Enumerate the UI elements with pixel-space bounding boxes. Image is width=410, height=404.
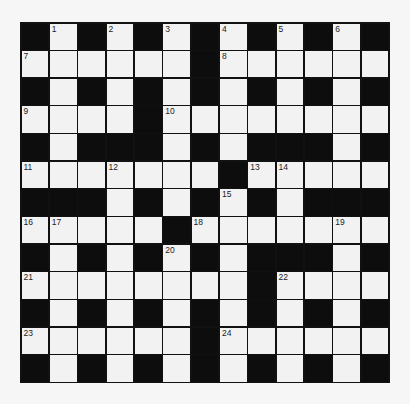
answer-cell[interactable]: 19 xyxy=(333,217,360,243)
answer-cell[interactable]: 10 xyxy=(163,106,190,132)
answer-cell[interactable] xyxy=(277,328,304,354)
answer-cell[interactable] xyxy=(107,217,134,243)
answer-cell[interactable]: 2 xyxy=(107,24,134,50)
answer-cell[interactable] xyxy=(248,106,275,132)
answer-cell[interactable] xyxy=(107,272,134,298)
answer-cell[interactable] xyxy=(107,300,134,326)
answer-cell[interactable] xyxy=(333,162,360,188)
answer-cell[interactable] xyxy=(163,328,190,354)
answer-cell[interactable] xyxy=(50,245,77,271)
answer-cell[interactable] xyxy=(362,328,389,354)
answer-cell[interactable] xyxy=(362,272,389,298)
answer-cell[interactable] xyxy=(220,245,247,271)
answer-cell[interactable] xyxy=(107,245,134,271)
answer-cell[interactable] xyxy=(78,106,105,132)
answer-cell[interactable] xyxy=(362,162,389,188)
answer-cell[interactable] xyxy=(50,134,77,160)
answer-cell[interactable] xyxy=(305,272,332,298)
answer-cell[interactable]: 6 xyxy=(333,24,360,50)
answer-cell[interactable]: 23 xyxy=(22,328,49,354)
answer-cell[interactable] xyxy=(135,162,162,188)
answer-cell[interactable] xyxy=(192,106,219,132)
answer-cell[interactable] xyxy=(78,217,105,243)
answer-cell[interactable] xyxy=(50,355,77,381)
answer-cell[interactable]: 12 xyxy=(107,162,134,188)
answer-cell[interactable] xyxy=(220,79,247,105)
answer-cell[interactable]: 7 xyxy=(22,51,49,77)
answer-cell[interactable] xyxy=(163,189,190,215)
answer-cell[interactable] xyxy=(305,217,332,243)
answer-cell[interactable] xyxy=(277,355,304,381)
answer-cell[interactable] xyxy=(333,300,360,326)
answer-cell[interactable] xyxy=(78,51,105,77)
answer-cell[interactable] xyxy=(50,300,77,326)
answer-cell[interactable] xyxy=(220,134,247,160)
answer-cell[interactable] xyxy=(305,162,332,188)
answer-cell[interactable]: 14 xyxy=(277,162,304,188)
answer-cell[interactable] xyxy=(362,217,389,243)
answer-cell[interactable] xyxy=(333,272,360,298)
answer-cell[interactable] xyxy=(135,328,162,354)
answer-cell[interactable]: 16 xyxy=(22,217,49,243)
answer-cell[interactable] xyxy=(333,328,360,354)
answer-cell[interactable] xyxy=(248,217,275,243)
answer-cell[interactable] xyxy=(107,328,134,354)
answer-cell[interactable] xyxy=(50,51,77,77)
answer-cell[interactable] xyxy=(192,162,219,188)
answer-cell[interactable] xyxy=(333,79,360,105)
answer-cell[interactable]: 3 xyxy=(163,24,190,50)
answer-cell[interactable] xyxy=(50,106,77,132)
answer-cell[interactable] xyxy=(78,272,105,298)
answer-cell[interactable] xyxy=(163,79,190,105)
answer-cell[interactable] xyxy=(220,300,247,326)
answer-cell[interactable] xyxy=(163,51,190,77)
answer-cell[interactable]: 17 xyxy=(50,217,77,243)
answer-cell[interactable]: 15 xyxy=(220,189,247,215)
answer-cell[interactable] xyxy=(277,300,304,326)
answer-cell[interactable] xyxy=(107,355,134,381)
answer-cell[interactable] xyxy=(107,51,134,77)
answer-cell[interactable] xyxy=(305,106,332,132)
answer-cell[interactable]: 9 xyxy=(22,106,49,132)
answer-cell[interactable] xyxy=(163,162,190,188)
answer-cell[interactable] xyxy=(277,51,304,77)
answer-cell[interactable] xyxy=(50,79,77,105)
answer-cell[interactable]: 22 xyxy=(277,272,304,298)
answer-cell[interactable] xyxy=(277,106,304,132)
answer-cell[interactable] xyxy=(333,51,360,77)
answer-cell[interactable]: 1 xyxy=(50,24,77,50)
answer-cell[interactable] xyxy=(107,79,134,105)
answer-cell[interactable]: 21 xyxy=(22,272,49,298)
answer-cell[interactable] xyxy=(220,272,247,298)
answer-cell[interactable] xyxy=(333,106,360,132)
answer-cell[interactable] xyxy=(362,51,389,77)
answer-cell[interactable] xyxy=(107,189,134,215)
answer-cell[interactable] xyxy=(248,51,275,77)
answer-cell[interactable] xyxy=(50,272,77,298)
answer-cell[interactable] xyxy=(248,328,275,354)
answer-cell[interactable] xyxy=(277,189,304,215)
answer-cell[interactable] xyxy=(305,328,332,354)
answer-cell[interactable] xyxy=(163,134,190,160)
answer-cell[interactable]: 4 xyxy=(220,24,247,50)
answer-cell[interactable]: 24 xyxy=(220,328,247,354)
answer-cell[interactable]: 18 xyxy=(192,217,219,243)
answer-cell[interactable]: 5 xyxy=(277,24,304,50)
answer-cell[interactable] xyxy=(277,79,304,105)
answer-cell[interactable]: 13 xyxy=(248,162,275,188)
answer-cell[interactable]: 8 xyxy=(220,51,247,77)
answer-cell[interactable] xyxy=(362,106,389,132)
answer-cell[interactable] xyxy=(163,300,190,326)
answer-cell[interactable] xyxy=(333,245,360,271)
answer-cell[interactable] xyxy=(220,355,247,381)
answer-cell[interactable] xyxy=(78,328,105,354)
answer-cell[interactable] xyxy=(220,106,247,132)
answer-cell[interactable] xyxy=(50,328,77,354)
answer-cell[interactable]: 11 xyxy=(22,162,49,188)
answer-cell[interactable] xyxy=(277,217,304,243)
answer-cell[interactable] xyxy=(163,272,190,298)
answer-cell[interactable] xyxy=(163,355,190,381)
answer-cell[interactable] xyxy=(107,106,134,132)
answer-cell[interactable] xyxy=(78,162,105,188)
answer-cell[interactable] xyxy=(135,51,162,77)
